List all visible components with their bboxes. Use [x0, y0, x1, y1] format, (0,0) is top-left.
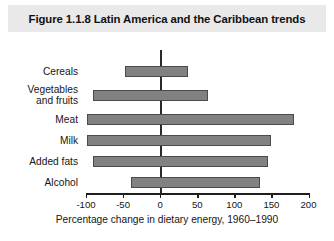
- bar-row: [86, 86, 309, 105]
- bar[interactable]: [93, 90, 208, 101]
- x-tick-label: 100: [226, 199, 242, 210]
- bar-chart: CerealsVegetables and fruitsMeatMilkAdde…: [0, 40, 334, 241]
- x-tick: [309, 193, 310, 198]
- x-tick-label: 0: [157, 199, 162, 210]
- category-label-vegetables: Vegetables and fruits: [28, 84, 78, 107]
- bar[interactable]: [93, 156, 269, 167]
- bar-row: [86, 62, 309, 81]
- category-label-alcohol: Alcohol: [45, 177, 78, 189]
- x-tick: [234, 193, 235, 198]
- figure-title-bar: Figure 1.1.8 Latin America and the Carib…: [8, 5, 326, 32]
- category-label-cereals: Cereals: [43, 66, 78, 78]
- bar-row: [86, 131, 309, 150]
- bar[interactable]: [125, 66, 189, 77]
- bar-row: [86, 110, 309, 129]
- x-tick-label: 200: [300, 199, 316, 210]
- x-tick-label: 50: [192, 199, 203, 210]
- category-label-meat: Meat: [55, 114, 78, 126]
- x-tick-label: 150: [263, 199, 279, 210]
- page-title: Figure 1.1.8 Latin America and the Carib…: [29, 13, 306, 25]
- x-tick: [271, 193, 272, 198]
- x-tick: [123, 193, 124, 198]
- x-tick-label: -100: [76, 199, 95, 210]
- bar[interactable]: [131, 177, 259, 188]
- x-tick: [197, 193, 198, 198]
- x-tick: [160, 193, 161, 198]
- x-tick: [86, 193, 87, 198]
- category-label-milk: Milk: [60, 135, 78, 147]
- bar-row: [86, 173, 309, 192]
- x-tick-label: -50: [116, 199, 130, 210]
- x-axis-title: Percentage change in dietary energy, 196…: [0, 214, 334, 225]
- bar[interactable]: [87, 135, 270, 146]
- bar-row: [86, 152, 309, 171]
- plot-area: [86, 50, 309, 193]
- category-label-added-fats: Added fats: [29, 156, 78, 168]
- bar[interactable]: [87, 114, 293, 125]
